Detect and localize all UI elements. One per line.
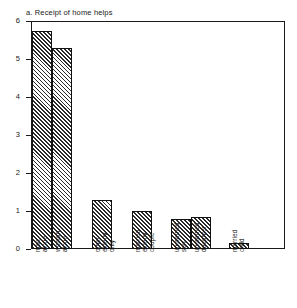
category-label: marriedchild bbox=[231, 198, 245, 252]
y-axis-tick: 2 bbox=[26, 173, 31, 174]
category-label-line: child bbox=[238, 198, 245, 252]
bar-chart: a. Receipt of home helps 0123456 manalon… bbox=[0, 0, 297, 308]
chart-title: a. Receipt of home helps bbox=[26, 8, 113, 17]
y-axis-tick-label: 1 bbox=[16, 206, 20, 216]
category-label-line: only bbox=[108, 198, 115, 252]
category-label-line: married bbox=[231, 198, 238, 252]
y-axis-tick: 1 bbox=[26, 211, 31, 212]
y-axis-tick: 5 bbox=[26, 59, 31, 60]
category-label: manalone bbox=[34, 198, 48, 252]
y-axis-tick: 6 bbox=[26, 21, 31, 22]
y-axis-tick-label: 2 bbox=[16, 168, 20, 178]
category-label: womanalone bbox=[54, 198, 68, 252]
category-label-line: unmarried bbox=[173, 198, 180, 252]
y-axis-tick-label: 6 bbox=[16, 16, 20, 26]
category-label-line: elderly bbox=[101, 198, 108, 252]
category-label-line: other bbox=[94, 198, 101, 252]
category-label-line: couple bbox=[148, 198, 155, 252]
category-label-line: elderly bbox=[141, 198, 148, 252]
category-label: otherelderlyonly bbox=[94, 198, 116, 252]
y-axis-tick-label: 4 bbox=[16, 92, 20, 102]
category-label-line: son bbox=[180, 198, 187, 252]
category-label-line: woman bbox=[54, 198, 61, 252]
y-axis-tick-label: 5 bbox=[16, 54, 20, 64]
category-label: marriedelderlycouple bbox=[134, 198, 156, 252]
y-axis-tick: 4 bbox=[26, 97, 31, 98]
category-label-line: alone bbox=[41, 198, 48, 252]
category-label: unmarriedson bbox=[173, 198, 187, 252]
y-axis-tick-label: 3 bbox=[16, 130, 20, 140]
category-label: unmarrieddaughter bbox=[193, 198, 207, 252]
category-label-line: man bbox=[34, 198, 41, 252]
category-label-line: married bbox=[134, 198, 141, 252]
category-label-line: alone bbox=[61, 198, 68, 252]
y-axis-tick-label: 0 bbox=[16, 244, 20, 254]
category-label-line: unmarried bbox=[193, 198, 200, 252]
y-axis-tick: 3 bbox=[26, 135, 31, 136]
category-label-line: daughter bbox=[200, 198, 207, 252]
